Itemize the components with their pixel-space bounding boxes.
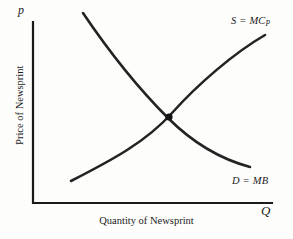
x-axis-title: Quantity of Newsprint <box>0 216 293 227</box>
equilibrium-point-marker <box>165 113 172 120</box>
plot-area <box>0 0 293 239</box>
supply-label-subscript: P <box>266 19 271 28</box>
supply-curve-label: S = MCP <box>231 16 270 27</box>
supply-label-text: S = MC <box>231 15 266 26</box>
supply-demand-figure: p Q S = MCP D = MB Quantity of Newsprint… <box>0 0 293 239</box>
y-axis-title: Price of Newsprint <box>15 35 26 175</box>
y-axis-symbol: p <box>18 4 24 16</box>
supply-curve <box>71 35 265 181</box>
demand-curve <box>83 13 250 167</box>
demand-curve-label: D = MB <box>232 176 268 187</box>
